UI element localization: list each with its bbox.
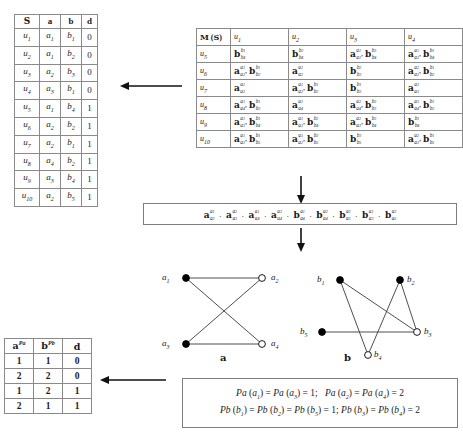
term-base: a [234,133,240,143]
term-subscript: b5 [430,140,435,145]
cell-object: u10 [15,189,40,207]
product-separator: · [307,211,315,221]
cell-b: b2 [67,48,75,58]
attribute-term: bb2b3 [365,100,376,111]
node-label: a1 [162,272,170,282]
term-base: a [408,133,414,143]
p-header-row: aPabPbd [5,339,92,354]
cell-a: a1 [40,46,61,64]
p-column-header-a: aPa [5,339,34,354]
term-base: a [292,82,298,92]
subscript: 1 [167,278,170,284]
attribute-term: aa1a3 [408,49,419,60]
term-superscript: a2 [414,133,419,138]
attribute-term: ba3a5 [385,210,396,221]
attribute-term: bb1b5 [249,134,260,145]
cell-object: u1 [15,29,40,47]
cell-object: u10 [22,190,33,200]
subscript: 8 [204,104,207,110]
partition-line-b: Pb (b1) = Pb (b2) = Pb (b5) = 1; Pb (b3)… [220,405,420,418]
term-subscript: a3 [298,123,303,128]
term-subscript: b4 [430,55,435,60]
node-label: a4 [271,338,279,348]
subscript: 1 [322,280,325,286]
term-indices: a1a2 [298,134,303,145]
cell-b: b2 [61,153,82,171]
term-superscript: a2 [356,99,361,104]
attribute-term: bb1b4 [423,49,434,60]
subscript: 6 [204,70,207,76]
table-row: u9a3b41 [15,171,98,189]
term-base: b [365,48,371,58]
cell-object: u6 [23,119,31,129]
m-table-cell: aa2a3 [404,80,462,97]
attribute-term: aa2a3 [408,66,419,77]
cell-a: a1 [46,101,54,111]
subscript: 4 [379,355,382,361]
attribute-term: bb2b3 [350,66,361,77]
m-table-row: u6aa1a2, bb1b2aa1a2bb2b3aa2a3, bb1b2 [197,63,463,80]
p-table-cell: 1 [63,399,92,414]
attribute-term: bb1b5 [423,134,434,145]
term-indices: b1b4 [430,49,435,60]
term-base: a [292,99,298,109]
term-subscript: a3 [414,140,419,145]
cell-object: u3 [15,64,40,82]
subscript: 3 [51,89,54,95]
object-label: u6 [200,66,207,75]
term-subscript: a3 [414,55,419,60]
term-superscript: a1 [298,99,303,104]
m-table-cell: aa1a2, bb1b5 [230,131,288,148]
attribute-term: bb1b2 [249,66,260,77]
subscript: 2 [72,160,75,166]
node-label: a3 [162,338,170,348]
term-indices: b1b2 [430,100,435,111]
cell-a: a4 [40,153,61,171]
term-superscript: a1 [240,82,245,87]
subscript: 4 [72,107,75,113]
p-table-cell: 0 [63,354,92,369]
term-base: a [292,116,298,126]
term-base: b [423,133,429,143]
term-indices: a1a4 [240,100,245,111]
term-subscript: a2 [298,89,303,94]
term-superscript: a2 [414,82,419,87]
term-indices: a1a2 [298,66,303,77]
p-table-cell: 1 [34,399,63,414]
subscript: 1 [238,36,241,42]
term-superscript: b1 [314,82,319,87]
attribute-term: aa2a3 [350,117,361,128]
m-table-cell: aa1a2, bb3b4 [346,46,404,63]
term-superscript: b2 [314,116,319,121]
cell-decision: 0 [82,64,98,82]
subscript: 4 [276,344,279,350]
p-table-cell: 2 [5,399,34,414]
m-table-cell: aa1a3, bb1b4 [230,114,288,131]
attribute-term: bb1b2 [307,83,318,94]
cell-b: b3 [61,64,82,82]
term-indices: a1a2 [210,210,215,221]
p-table-row: 220 [5,369,92,384]
cell-object: u2 [23,48,31,58]
node-label: a2 [271,272,279,282]
term-superscript: a3 [414,99,419,104]
term-base: b [339,209,345,219]
subscript: 8 [28,160,31,166]
term-indices: b1b2 [256,66,261,77]
column-header-b: b [61,15,82,29]
cell-a: a3 [40,82,61,100]
cell-a: a3 [46,172,54,182]
term-subscript: b5 [314,140,319,145]
term-base: a [234,82,240,92]
subscript: 2 [72,54,75,60]
term-superscript: a1 [300,209,305,214]
term-subscript: a4 [298,106,303,111]
cell-decision: 1 [82,100,98,118]
cell-a: a2 [40,117,61,135]
cell-b: b2 [61,117,82,135]
term-base: b [423,99,429,109]
term-subscript: a2 [298,140,303,145]
term-indices: b1b2 [314,83,319,94]
attribute-term: aa1a4 [292,100,303,111]
term-base: a [408,99,414,109]
